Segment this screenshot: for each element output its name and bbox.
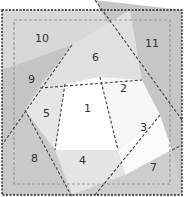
- label-9: 9: [28, 73, 35, 86]
- label-2: 2: [120, 82, 127, 95]
- label-1: 1: [84, 102, 91, 115]
- label-7: 7: [150, 161, 157, 174]
- label-3: 3: [140, 121, 147, 134]
- label-10: 10: [35, 32, 49, 45]
- label-5: 5: [43, 107, 50, 120]
- label-4: 4: [79, 154, 86, 167]
- label-11: 11: [145, 37, 159, 50]
- quilt-diagram: 10 11 9 6 2 5 1 3 8 4 7: [0, 0, 184, 197]
- label-6: 6: [92, 51, 99, 64]
- label-8: 8: [31, 152, 38, 165]
